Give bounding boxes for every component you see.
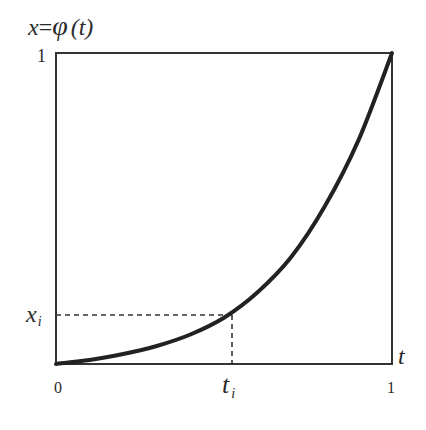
x-tick-1: 1 bbox=[387, 379, 395, 396]
ti-label: ti bbox=[222, 370, 235, 401]
phi-curve bbox=[56, 53, 392, 364]
xi-label: xi bbox=[25, 301, 42, 329]
y-axis-title: x=φ(t) bbox=[27, 10, 93, 41]
chart-canvas: x=φ(t) 1 xi 0 ti 1 t bbox=[0, 0, 426, 430]
y-tick-1: 1 bbox=[37, 46, 46, 66]
x-axis-label: t bbox=[398, 343, 406, 369]
x-tick-0: 0 bbox=[54, 379, 62, 396]
